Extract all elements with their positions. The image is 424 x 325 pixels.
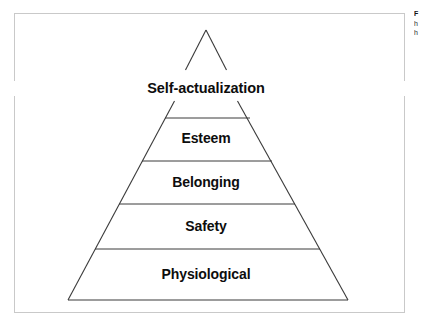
level-text-safety: Safety: [180, 219, 231, 233]
level-text-physiological: Physiological: [157, 267, 256, 281]
caption-line-3: h: [414, 28, 424, 38]
caption-line-2: h: [414, 19, 424, 29]
figure-caption-cropped: F h h: [414, 9, 424, 49]
pyramid-left-slope-upper: [186, 30, 207, 70]
pyramid-level-label-belonging: Belonging: [0, 175, 412, 189]
pyramid-level-label-esteem: Esteem: [0, 131, 412, 145]
figure-page: Self-actualization Esteem Belonging Safe…: [0, 0, 424, 325]
pyramid-level-label-safety: Safety: [0, 219, 412, 233]
level-text-belonging: Belonging: [167, 175, 245, 189]
level-text-esteem: Esteem: [176, 131, 235, 145]
caption-line-1: F: [414, 9, 424, 19]
pyramid-level-label-physiological: Physiological: [0, 267, 412, 281]
level-text-self-actualization: Self-actualization: [142, 81, 269, 96]
pyramid-right-slope-upper: [206, 30, 227, 70]
pyramid-level-label-self-actualization: Self-actualization: [0, 81, 412, 96]
